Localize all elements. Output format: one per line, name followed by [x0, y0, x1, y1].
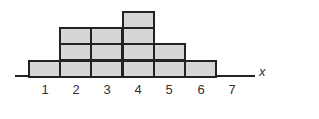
x-tick-label: 5 — [165, 82, 172, 97]
unit-square — [122, 11, 155, 29]
unit-square-histogram: x 1234567 — [0, 0, 319, 119]
unit-square — [184, 60, 217, 78]
unit-square — [153, 43, 186, 61]
x-tick-label: 3 — [103, 82, 110, 97]
unit-square — [59, 60, 92, 78]
unit-square — [153, 60, 186, 78]
unit-square — [122, 43, 155, 61]
unit-square — [59, 27, 92, 45]
unit-square — [59, 43, 92, 61]
x-tick-label: 7 — [228, 82, 235, 97]
unit-square — [122, 60, 155, 78]
unit-square — [28, 60, 61, 78]
x-axis-label: x — [259, 64, 266, 79]
x-tick-label: 6 — [197, 82, 204, 97]
unit-square — [90, 27, 123, 45]
unit-square — [90, 60, 123, 78]
unit-square — [90, 43, 123, 61]
unit-square — [122, 27, 155, 45]
x-tick-label: 2 — [72, 82, 79, 97]
x-tick-label: 4 — [134, 82, 141, 97]
x-tick-label: 1 — [41, 82, 48, 97]
